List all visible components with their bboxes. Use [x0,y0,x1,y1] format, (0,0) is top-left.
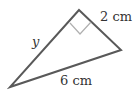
triangle-diagram: y 2 cm 6 cm [0,0,140,93]
label-y: y [31,34,40,49]
label-6cm: 6 cm [60,73,92,88]
right-angle-marker [70,22,91,34]
label-2cm: 2 cm [100,9,132,24]
